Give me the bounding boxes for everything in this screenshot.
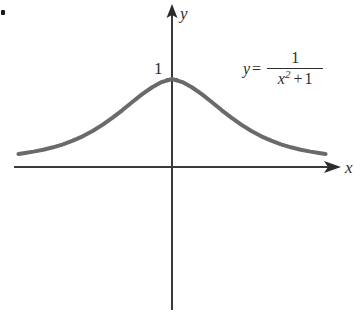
equation-denominator-exponent: 2 <box>285 68 291 80</box>
y-axis-label: y <box>180 5 188 22</box>
equation-lhs: y <box>243 60 250 78</box>
y-tick-label-one: 1 <box>154 60 163 77</box>
equation-denominator-plus: + <box>293 70 302 87</box>
equation-fraction: 1 x2+1 <box>267 50 323 88</box>
x-axis-label: x <box>345 159 353 176</box>
graph-figure: y x 1 y = 1 x2+1 <box>0 0 362 325</box>
equation-denominator: x2+1 <box>274 69 317 88</box>
equation-numerator: 1 <box>285 50 305 68</box>
equation-denominator-variable: x <box>278 70 285 87</box>
equation-equals-sign: = <box>252 60 261 78</box>
equation-denominator-constant: 1 <box>304 70 312 87</box>
function-equation-label: y = 1 x2+1 <box>243 50 323 88</box>
plot-canvas <box>0 0 362 325</box>
